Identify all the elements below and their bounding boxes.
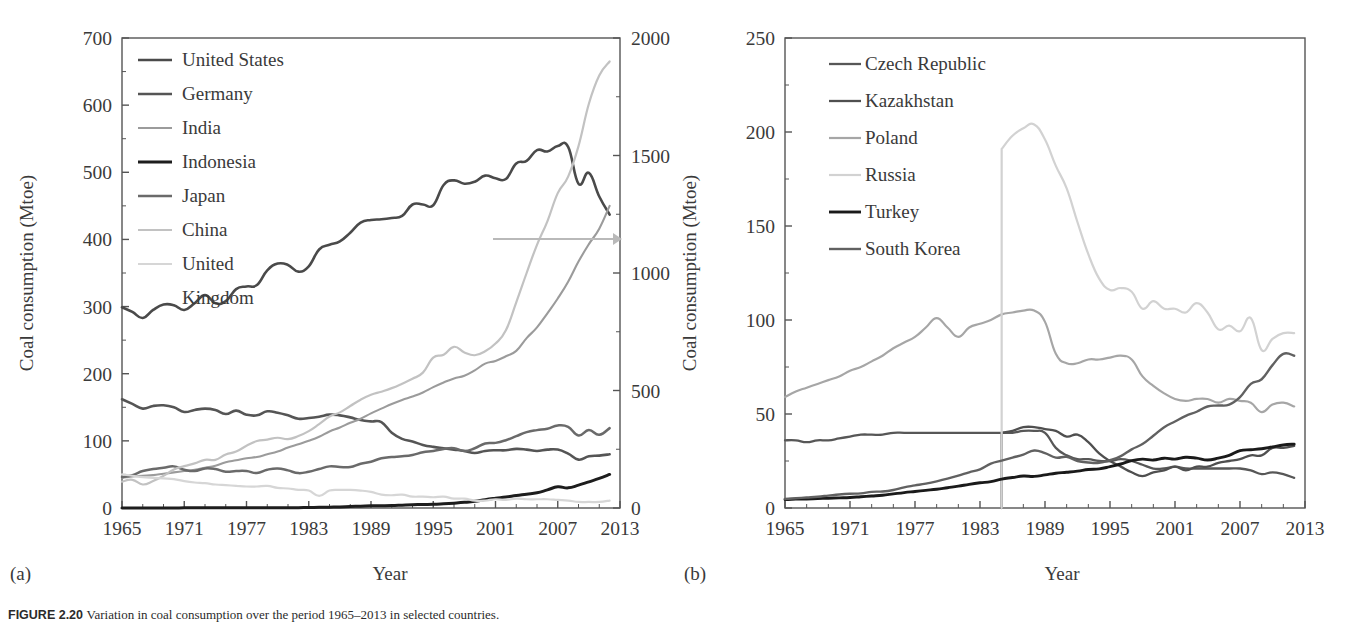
plot-frame-b xyxy=(785,38,1305,508)
chart-panel-a: 1965197119771983198919952001200720130100… xyxy=(0,0,682,600)
x-tick-label: 1989 xyxy=(1026,518,1065,539)
panel-letter-b: (b) xyxy=(684,563,706,585)
x-tick-label: 2001 xyxy=(1156,518,1195,539)
legend-label: United xyxy=(182,253,234,274)
y2-tick-label: 1500 xyxy=(631,146,670,167)
y-tick-label: 100 xyxy=(746,310,775,331)
legend-label: Japan xyxy=(182,185,226,206)
legend-label: United States xyxy=(182,49,284,70)
series-line xyxy=(785,309,1294,412)
x-tick-label: 1977 xyxy=(896,518,935,539)
series-line xyxy=(785,431,1294,478)
legend-label: Poland xyxy=(865,127,918,148)
y-tick-label: 100 xyxy=(83,431,112,452)
y2-tick-label: 500 xyxy=(631,381,660,402)
axis-tick-labels-b: 1965197119771983198919952001200720130501… xyxy=(746,28,1325,539)
y-tick-label: 50 xyxy=(756,404,776,425)
legend-label: Germany xyxy=(182,83,253,104)
legend-label: Kingdom xyxy=(182,287,254,308)
y-tick-label: 700 xyxy=(83,28,112,49)
legend-label: Turkey xyxy=(865,201,920,222)
right-axis-arrow-icon xyxy=(493,233,622,245)
legend-a: United StatesGermanyIndiaIndonesiaJapanC… xyxy=(138,49,284,308)
x-axis-title-b: Year xyxy=(1044,563,1080,584)
legend-label: Kazakhstan xyxy=(865,90,954,111)
y-tick-label: 200 xyxy=(83,364,112,385)
y-tick-label: 250 xyxy=(746,28,775,49)
legend-b: Czech RepublicKazakhstanPolandRussiaTurk… xyxy=(829,53,986,259)
chart-panel-b: 1965197119771983198919952001200720130501… xyxy=(682,0,1364,600)
figure-caption-text: Variation in coal consumption over the p… xyxy=(87,607,500,622)
y-tick-label: 0 xyxy=(102,498,112,519)
y-tick-label: 200 xyxy=(746,122,775,143)
y-tick-label: 150 xyxy=(746,216,775,237)
legend-label: South Korea xyxy=(865,238,961,259)
series-line xyxy=(122,474,610,502)
panel-b-svg: 1965197119771983198919952001200720130501… xyxy=(682,0,1364,600)
series-line xyxy=(785,444,1294,499)
x-tick-label: 1989 xyxy=(352,518,391,539)
x-axis-title-a: Year xyxy=(372,563,408,584)
x-tick-label: 1977 xyxy=(227,518,266,539)
x-tick-label: 2007 xyxy=(538,518,577,539)
figure-container: 1965197119771983198919952001200720130100… xyxy=(0,0,1364,628)
x-tick-label: 1995 xyxy=(414,518,453,539)
legend-label: China xyxy=(182,219,228,240)
figure-caption-label: FIGURE 2.20 xyxy=(8,608,83,622)
legend-label: Indonesia xyxy=(182,151,256,172)
y-tick-label: 600 xyxy=(83,95,112,116)
y-tick-label: 0 xyxy=(765,498,775,519)
y-tick-label: 400 xyxy=(83,229,112,250)
y2-tick-label: 0 xyxy=(631,498,641,519)
figure-caption: FIGURE 2.20 Variation in coal consumptio… xyxy=(8,607,1358,627)
x-tick-label: 1971 xyxy=(165,518,204,539)
y2-tick-label: 1000 xyxy=(631,263,670,284)
x-tick-label: 2007 xyxy=(1221,518,1260,539)
x-tick-label: 1965 xyxy=(103,518,142,539)
y2-tick-label: 2000 xyxy=(631,28,670,49)
x-tick-label: 1965 xyxy=(766,518,805,539)
y-tick-label: 300 xyxy=(83,297,112,318)
panel-letter-a: (a) xyxy=(10,563,31,585)
x-tick-label: 1995 xyxy=(1091,518,1130,539)
x-tick-label: 1983 xyxy=(289,518,328,539)
panel-a-svg: 1965197119771983198919952001200720130100… xyxy=(0,0,682,600)
data-lines-b xyxy=(785,124,1294,508)
x-tick-label: 2013 xyxy=(601,518,640,539)
x-tick-label: 2001 xyxy=(476,518,515,539)
y-axis-title-b: Coal consumption (Mtoe) xyxy=(682,175,701,371)
y-axis-title-a: Coal consumption (Mtoe) xyxy=(16,175,38,371)
axis-ticks-b xyxy=(785,38,1305,508)
legend-label: Czech Republic xyxy=(865,53,986,74)
x-tick-label: 2013 xyxy=(1286,518,1325,539)
x-tick-label: 1983 xyxy=(961,518,1000,539)
legend-label: Russia xyxy=(865,164,916,185)
y-tick-label: 500 xyxy=(83,162,112,183)
legend-label: India xyxy=(182,117,222,138)
x-tick-label: 1971 xyxy=(831,518,870,539)
axis-tick-labels-a: 1965197119771983198919952001200720130100… xyxy=(83,28,670,539)
